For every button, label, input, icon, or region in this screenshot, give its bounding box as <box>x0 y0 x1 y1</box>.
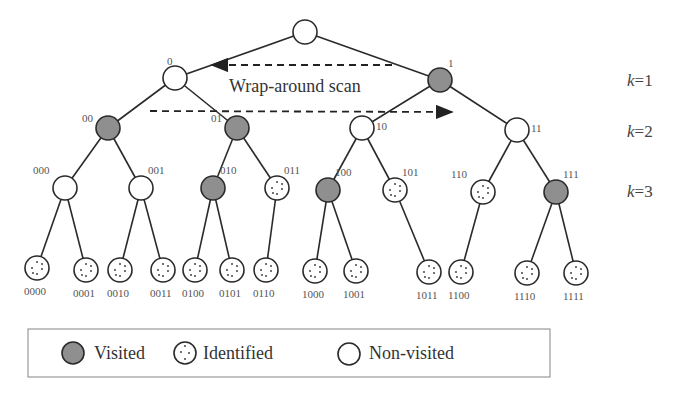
node-label: 1110 <box>514 290 536 302</box>
tree-edge <box>440 80 517 130</box>
node-label: 1111 <box>563 290 584 302</box>
node-label: 110 <box>451 168 468 180</box>
node-label: 010 <box>220 164 237 176</box>
identified-node-icon <box>383 178 407 202</box>
scan-arrow-right <box>150 111 452 112</box>
node-label: 0110 <box>253 287 275 299</box>
node-label: 1000 <box>302 288 325 300</box>
tree-node-0100: 0100 <box>182 258 207 299</box>
level-label-k2: k=2 <box>627 122 653 141</box>
node-label: 111 <box>563 168 579 180</box>
identified-node-icon <box>471 180 495 204</box>
node-label: 011 <box>284 164 300 176</box>
node-label: 1001 <box>343 288 365 300</box>
node-label: 0000 <box>24 285 47 297</box>
identified-node-icon <box>303 259 327 283</box>
tree-edges <box>37 32 576 273</box>
identified-node-icon <box>515 261 539 285</box>
node-label: 0101 <box>219 287 241 299</box>
identified-node-icon <box>449 260 473 284</box>
tree-node-1001: 1001 <box>343 259 368 300</box>
legend-label-visited: Visited <box>94 343 145 363</box>
identified-node-icon <box>254 258 278 282</box>
tree-node-110: 110 <box>451 168 495 204</box>
visited-node-icon <box>316 178 340 202</box>
node-label: 01 <box>211 112 222 124</box>
level-label-k3: k=3 <box>627 182 653 201</box>
tree-node-0110: 0110 <box>253 258 278 299</box>
identified-node-icon <box>183 258 207 282</box>
tree-node-0101: 0101 <box>219 258 244 299</box>
non-visited-swatch-icon <box>338 343 360 365</box>
identified-node-icon <box>151 258 175 282</box>
tree-node-1111: 1111 <box>563 261 588 302</box>
legend-label-identified: Identified <box>203 343 273 363</box>
tree-node-0001: 0001 <box>73 258 98 299</box>
identified-node-icon <box>417 260 441 284</box>
tree-node-1011: 1011 <box>416 260 441 301</box>
tree-node-011: 011 <box>265 164 300 200</box>
tree-node-101: 101 <box>383 166 419 202</box>
tree-node-0: 0 <box>163 55 187 90</box>
tree-node-1110: 1110 <box>514 261 539 302</box>
tree-node-100: 100 <box>316 166 352 202</box>
visited-node-icon <box>428 68 452 92</box>
non-visited-node-icon <box>53 176 77 200</box>
binary-tree-diagram: Wrap-around scan 01000110110000010100111… <box>0 0 686 394</box>
node-label: 001 <box>148 164 165 176</box>
tree-node-001: 001 <box>129 164 165 200</box>
legend-item-visited: Visited <box>62 342 145 364</box>
node-label: 11 <box>531 122 542 134</box>
node-label: 0011 <box>150 287 172 299</box>
node-label: 000 <box>33 164 50 176</box>
identified-node-icon <box>74 258 98 282</box>
legend-item-non-visited: Non-visited <box>338 343 454 365</box>
identified-node-icon <box>344 259 368 283</box>
legend-item-identified: Identified <box>174 342 273 364</box>
tree-node-1100: 1100 <box>448 260 473 301</box>
visited-node-icon <box>96 116 120 140</box>
visited-node-icon <box>544 180 568 204</box>
node-label: 1 <box>448 57 454 69</box>
legend-label-non-visited: Non-visited <box>369 343 454 363</box>
tree-edge <box>395 190 429 272</box>
tree-node-1000: 1000 <box>302 259 327 300</box>
visited-node-icon <box>225 116 249 140</box>
node-label: 0001 <box>73 287 95 299</box>
identified-node-icon <box>108 258 132 282</box>
tree-edge <box>175 32 305 78</box>
node-label: 1011 <box>416 289 438 301</box>
visited-node-icon <box>201 176 225 200</box>
tree-node-000: 000 <box>33 164 77 200</box>
tree-node-0011: 0011 <box>150 258 175 299</box>
node-label: 1100 <box>448 289 470 301</box>
node-label: 00 <box>82 112 94 124</box>
tree-node-0010: 0010 <box>107 258 132 299</box>
node-label: 101 <box>402 166 419 178</box>
scan-label: Wrap-around scan <box>229 76 361 96</box>
tree-edge <box>527 192 556 273</box>
tree-edge <box>362 80 440 128</box>
tree-node-0000: 0000 <box>24 256 49 297</box>
non-visited-node-icon <box>163 66 187 90</box>
legend: Visited Identified Non-visited <box>28 329 550 377</box>
node-label: 0010 <box>107 287 130 299</box>
level-label-k1: k=1 <box>627 71 653 90</box>
identified-node-icon <box>564 261 588 285</box>
tree-node-111: 111 <box>544 168 579 204</box>
non-visited-node-icon <box>293 20 317 44</box>
node-label: 100 <box>335 166 352 178</box>
node-label: 0100 <box>182 287 205 299</box>
non-visited-node-icon <box>505 118 529 142</box>
node-label: 0 <box>167 55 173 67</box>
tree-node-00: 00 <box>82 112 120 140</box>
tree-node-010: 010 <box>201 164 237 200</box>
tree-node-01: 01 <box>211 112 249 140</box>
tree-edge <box>305 32 440 80</box>
non-visited-node-icon <box>129 176 153 200</box>
identified-node-icon <box>25 256 49 280</box>
identified-node-icon <box>265 176 289 200</box>
non-visited-node-icon <box>350 116 374 140</box>
tree-node-root <box>293 20 317 44</box>
node-label: 10 <box>376 120 388 132</box>
